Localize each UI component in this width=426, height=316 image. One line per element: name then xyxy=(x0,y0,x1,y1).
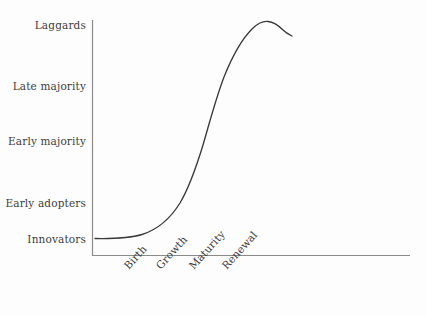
adoption-curve-chart: Laggards Late majority Early majority Ea… xyxy=(0,0,426,316)
y-tick-label-early-adopters: Early adopters xyxy=(5,198,86,209)
y-tick-label-late-majority: Late majority xyxy=(13,81,86,92)
chart-plot-area xyxy=(0,0,426,316)
adoption-curve-line xyxy=(95,21,292,238)
y-tick-label-innovators: Innovators xyxy=(27,234,86,245)
y-tick-label-laggards: Laggards xyxy=(35,20,86,31)
y-tick-label-early-majority: Early majority xyxy=(8,136,86,147)
